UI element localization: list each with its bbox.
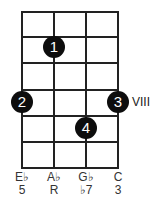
- note-label-1: E♭: [10, 171, 34, 183]
- finger-dot-2: 2: [11, 91, 33, 113]
- note-label-3: G♭: [74, 171, 98, 183]
- finger-dot-3: 3: [107, 91, 129, 113]
- fret-line-5: [21, 141, 119, 143]
- finger-dot-1: 1: [43, 36, 65, 58]
- chord-diagram: 1 2 3 4 VIII E♭ A♭ G♭ C 5 R ♭7 3: [0, 0, 162, 210]
- fret-line-2: [21, 62, 119, 64]
- interval-label-1: 5: [10, 184, 34, 196]
- interval-label-3: ♭7: [74, 184, 98, 196]
- fret-line-3: [21, 89, 119, 91]
- note-label-2: A♭: [42, 171, 66, 183]
- fret-line-0: [21, 11, 119, 13]
- fret-line-6: [21, 167, 119, 169]
- fret-line-1: [21, 36, 119, 38]
- interval-label-2: R: [42, 184, 66, 196]
- note-label-4: C: [106, 171, 130, 183]
- fret-line-4: [21, 115, 119, 117]
- fret-position-label: VIII: [132, 96, 150, 108]
- interval-label-4: 3: [106, 184, 130, 196]
- finger-dot-4: 4: [75, 117, 97, 139]
